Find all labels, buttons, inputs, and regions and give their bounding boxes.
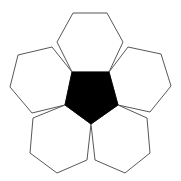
- soccer-ball-diagram: [0, 0, 181, 181]
- hexagon-left: [10, 47, 72, 113]
- hexagon-right: [109, 47, 171, 112]
- hexagon-top: [57, 13, 123, 72]
